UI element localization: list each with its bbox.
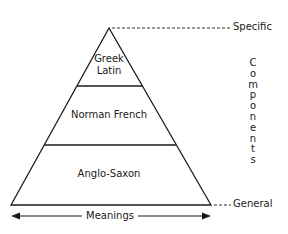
axis-letter: o — [248, 69, 258, 80]
layer-label-line: Greek — [79, 53, 139, 65]
general-label: General — [233, 198, 272, 210]
components-axis-label: C o m p o n e n t s — [248, 58, 258, 166]
layer-label-line: Anglo-Saxon — [59, 168, 159, 180]
axis-letter: s — [248, 155, 258, 166]
specific-label: Specific — [233, 21, 272, 33]
layer-label-line: Norman French — [59, 109, 159, 121]
axis-letter: e — [248, 123, 258, 134]
meanings-axis-label: Meanings — [83, 210, 137, 222]
arrow-right-icon — [202, 213, 211, 220]
arrow-left-icon — [11, 213, 20, 220]
layer-label-line: Latin — [79, 65, 139, 77]
layer-label-greek-latin: Greek Latin — [79, 53, 139, 77]
layer-label-anglo-saxon: Anglo-Saxon — [59, 168, 159, 180]
layer-label-norman-french: Norman French — [59, 109, 159, 121]
